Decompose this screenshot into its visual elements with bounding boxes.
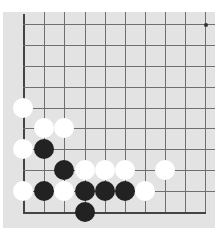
white-stone [115, 160, 135, 180]
grid-line-vertical [185, 12, 186, 213]
black-stone [54, 160, 74, 180]
grid-line-horizontal [23, 87, 215, 88]
white-stone [135, 181, 155, 201]
white-stone [13, 98, 33, 118]
grid-line-vertical [205, 12, 206, 213]
star-point [204, 23, 208, 27]
grid-line-horizontal [23, 24, 215, 25]
white-stone [54, 118, 74, 138]
grid-line-horizontal [23, 66, 215, 67]
white-stone [95, 160, 115, 180]
white-stone [75, 160, 95, 180]
black-stone [34, 139, 54, 159]
white-stone [34, 118, 54, 138]
white-stone [13, 181, 33, 201]
black-stone [115, 181, 135, 201]
board-edge-bottom [23, 212, 206, 214]
white-stone [54, 181, 74, 201]
white-stone [13, 139, 33, 159]
black-stone [95, 181, 115, 201]
black-stone [75, 202, 95, 222]
grid-line-horizontal [23, 108, 215, 109]
go-board[interactable] [3, 12, 215, 228]
grid-line-horizontal [23, 45, 215, 46]
white-stone [155, 160, 175, 180]
grid-line-vertical [165, 12, 166, 213]
black-stone [34, 181, 54, 201]
black-stone [75, 181, 95, 201]
